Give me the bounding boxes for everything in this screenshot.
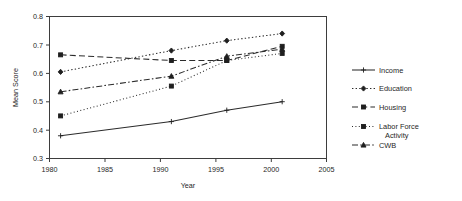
data-point-marker: [280, 51, 284, 55]
data-point-marker: [225, 59, 229, 63]
data-point-marker: [169, 84, 173, 88]
legend-label: Housing: [379, 103, 406, 112]
plot-frame: [50, 17, 327, 159]
y-axis-ticks: [46, 17, 50, 159]
data-point-marker: [58, 133, 63, 138]
x-tick-label: 1990: [152, 165, 168, 174]
legend-swatch-marker: [361, 86, 366, 91]
legend-item-income[interactable]: Income: [352, 66, 403, 75]
x-tick-label: 2000: [263, 165, 279, 174]
data-point-marker: [224, 38, 229, 43]
y-tick-label: 0.4: [33, 126, 43, 135]
x-axis-title: Year: [181, 181, 196, 190]
y-tick-label: 0.7: [33, 41, 43, 50]
data-point-marker: [58, 69, 63, 74]
y-tick-label: 0.8: [33, 12, 43, 21]
y-axis-tick-labels: 0.8 0.7 0.6 0.5 0.4 0.3: [33, 12, 43, 163]
y-axis-title: Mean Score: [11, 68, 20, 107]
legend-item-labor-force[interactable]: Labor ForceActivity: [352, 122, 419, 140]
data-point-marker: [59, 53, 63, 57]
legend-item-education[interactable]: Education: [352, 84, 412, 93]
data-point-marker: [169, 59, 173, 63]
data-point-marker: [224, 108, 229, 113]
x-tick-label: 1995: [208, 165, 224, 174]
data-point-marker: [169, 119, 174, 124]
legend-swatch-marker: [362, 125, 366, 129]
legend-label-continuation: Activity: [385, 131, 409, 140]
legend-swatch-marker: [361, 67, 366, 72]
legend-swatch-marker: [362, 105, 366, 109]
x-axis-ticks: [50, 159, 327, 163]
series-layer: [58, 31, 285, 138]
data-point-marker: [59, 114, 63, 118]
legend-swatch-marker: [361, 142, 366, 147]
x-axis-tick-labels: 1980 1985 1990 1995 2000 2005: [42, 165, 335, 174]
chart-figure: 0.8 0.7 0.6 0.5 0.4 0.3 Mean Score 1980 …: [0, 0, 462, 201]
data-point-marker: [169, 74, 174, 79]
y-tick-label: 0.3: [33, 154, 43, 163]
data-point-marker: [58, 89, 63, 94]
data-point-marker: [280, 31, 285, 36]
data-point-marker: [224, 54, 229, 59]
y-tick-label: 0.6: [33, 69, 43, 78]
series-income: [58, 99, 285, 138]
y-tick-label: 0.5: [33, 97, 43, 106]
legend-label: Labor Force: [379, 122, 419, 131]
data-point-marker: [280, 99, 285, 104]
legend-item-housing[interactable]: Housing: [352, 103, 406, 112]
legend-label: Income: [379, 66, 403, 75]
x-tick-label: 2005: [319, 165, 335, 174]
legend-item-cwb[interactable]: CWB: [352, 141, 396, 150]
line-chart: 0.8 0.7 0.6 0.5 0.4 0.3 Mean Score 1980 …: [0, 0, 462, 201]
x-tick-label: 1985: [97, 165, 113, 174]
x-tick-label: 1980: [42, 165, 58, 174]
legend-label: CWB: [379, 141, 396, 150]
data-point-marker: [169, 48, 174, 53]
legend-label: Education: [379, 84, 412, 93]
chart-legend: IncomeEducationHousingLabor ForceActivit…: [352, 66, 419, 150]
